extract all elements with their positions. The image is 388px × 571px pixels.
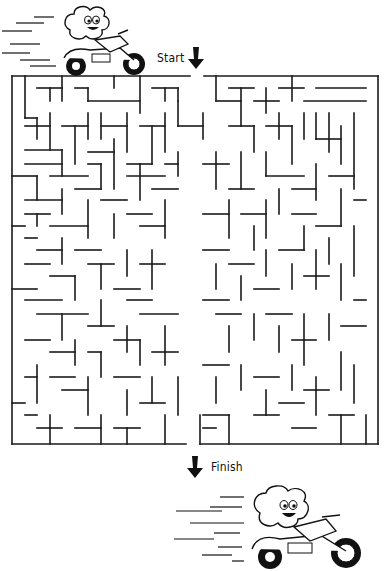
motorcycle-character-top-icon [0,0,160,78]
finish-label: Finish [211,460,243,474]
arrow-down-finish-icon [187,456,203,478]
motorcycle-character-bottom-icon [170,485,388,571]
start-label: Start [157,51,184,65]
arrow-down-start-icon [188,47,204,69]
